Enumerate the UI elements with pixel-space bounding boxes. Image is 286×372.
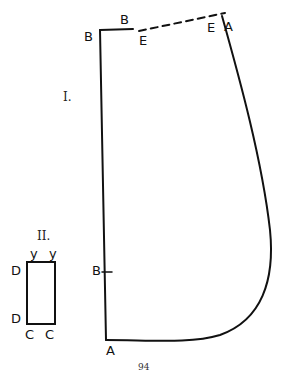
piece-two-outline: [27, 262, 55, 324]
label-a-bottom-left: A: [106, 343, 115, 358]
label-b-notch: B: [92, 263, 101, 278]
label-d-top: D: [11, 263, 21, 278]
label-y-right: y: [49, 246, 57, 261]
label-b-top-step: B: [120, 12, 129, 27]
numeral-one: I.: [63, 90, 72, 104]
label-c-right: C: [45, 327, 54, 342]
label-e-dashed-end: E: [207, 20, 215, 35]
pattern-diagram: B B E E A B A I. II. y y D D C C 94: [0, 0, 286, 372]
label-a-top-right: A: [224, 19, 233, 34]
label-c-left: C: [25, 327, 34, 342]
page-number: 94: [138, 362, 150, 372]
numeral-two: II.: [37, 229, 50, 243]
label-e-dashed-start: E: [139, 33, 147, 48]
label-b-top-left: B: [84, 29, 93, 44]
label-y-left: y: [30, 246, 38, 261]
label-d-bottom: D: [11, 311, 21, 326]
piece-one-outline: [100, 13, 271, 341]
